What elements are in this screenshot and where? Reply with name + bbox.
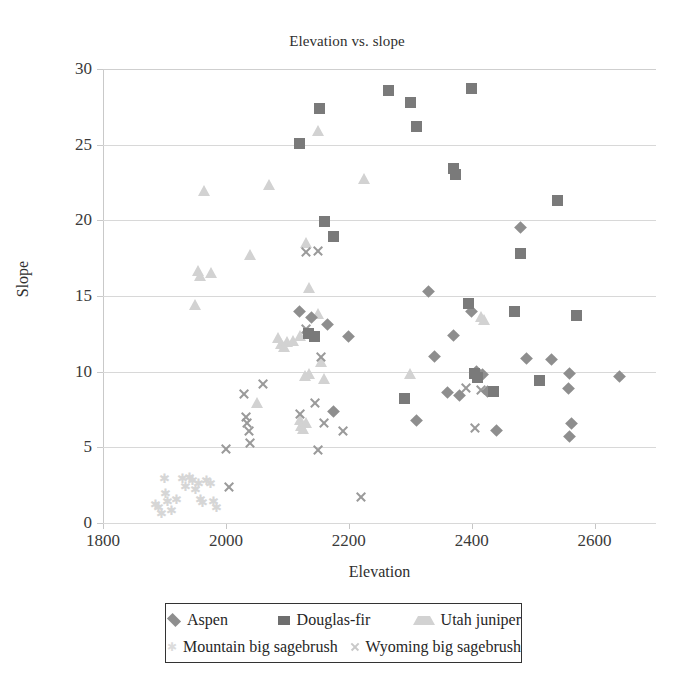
gridline xyxy=(103,69,656,70)
x-tick-label: 2200 xyxy=(304,531,394,551)
data-point xyxy=(450,169,461,180)
data-point xyxy=(342,330,355,343)
data-point xyxy=(564,367,577,380)
data-point xyxy=(318,373,330,384)
data-point xyxy=(294,138,305,149)
data-point xyxy=(564,430,577,443)
data-point xyxy=(463,298,474,309)
data-point xyxy=(545,353,558,366)
legend: Aspen Douglas-fir Utah juniper ✱ Mountai… xyxy=(165,603,522,663)
data-point xyxy=(515,248,526,259)
data-point xyxy=(321,318,334,331)
legend-entry-douglas-fir[interactable]: Douglas-fir xyxy=(277,611,371,629)
data-point xyxy=(205,267,217,278)
cross-icon xyxy=(349,641,361,653)
data-point xyxy=(244,249,256,260)
y-tick-label: 25 xyxy=(32,135,92,155)
data-point xyxy=(466,83,477,94)
y-tick-label: 30 xyxy=(32,59,92,79)
data-point: ✱ xyxy=(183,472,195,484)
data-point xyxy=(521,352,534,365)
data-point xyxy=(223,481,235,493)
data-point xyxy=(244,437,256,449)
data-point xyxy=(562,382,575,395)
legend-label: Douglas-fir xyxy=(297,611,371,629)
data-point: ✱ xyxy=(205,478,217,490)
data-point: ✱ xyxy=(158,473,170,485)
data-point xyxy=(293,305,306,318)
legend-row-secondary: ✱ Mountain big sagebrush Wyoming big sag… xyxy=(166,633,521,661)
y-axis-title: Slope xyxy=(14,209,32,349)
data-point xyxy=(327,405,340,418)
y-tick-label: 20 xyxy=(32,210,92,230)
diamond-icon xyxy=(167,613,181,627)
x-tick-label: 2400 xyxy=(427,531,517,551)
data-point xyxy=(243,425,255,437)
data-point xyxy=(383,85,394,96)
chart-title: Elevation vs. slope xyxy=(103,33,591,50)
data-point xyxy=(571,310,582,321)
data-point xyxy=(257,378,269,390)
data-point xyxy=(552,195,563,206)
data-point xyxy=(318,417,330,429)
data-point xyxy=(355,491,367,503)
plot-area: ✱✱✱✱✱✱✱✱✱✱✱✱✱✱✱✱✱✱✱✱ xyxy=(103,69,656,523)
legend-label: Wyoming big sagebrush xyxy=(366,638,521,656)
data-point xyxy=(337,425,349,437)
data-point xyxy=(478,314,490,325)
legend-row-primary: Aspen Douglas-fir Utah juniper xyxy=(166,606,521,634)
data-point xyxy=(309,331,320,342)
legend-entry-utah-juniper[interactable]: Utah juniper xyxy=(412,611,521,629)
data-point: ✱ xyxy=(211,502,223,514)
data-point xyxy=(294,408,306,420)
data-point xyxy=(514,222,527,235)
legend-label: Utah juniper xyxy=(441,611,521,629)
x-tick-label: 2000 xyxy=(181,531,271,551)
data-point xyxy=(312,125,324,136)
data-point xyxy=(299,370,311,381)
data-point xyxy=(309,397,321,409)
legend-label: Aspen xyxy=(187,611,228,629)
y-tick-label: 15 xyxy=(32,286,92,306)
data-point xyxy=(428,350,441,363)
data-point: ✱ xyxy=(160,488,172,500)
gridline xyxy=(103,145,656,146)
gridline xyxy=(103,296,656,297)
y-axis-tick-labels: 051015202530 xyxy=(28,0,92,694)
data-point xyxy=(312,444,324,456)
data-point xyxy=(410,414,423,427)
data-point xyxy=(488,386,499,397)
data-point xyxy=(314,103,325,114)
data-point xyxy=(469,422,481,434)
data-point xyxy=(534,375,545,386)
gridline xyxy=(103,523,656,524)
triangle-icon xyxy=(413,616,435,625)
gridline xyxy=(103,447,656,448)
legend-entry-aspen[interactable]: Aspen xyxy=(166,611,228,629)
data-point xyxy=(472,372,483,383)
star-icon: ✱ xyxy=(166,641,178,653)
legend-entry-mountain-big-sagebrush[interactable]: ✱ Mountain big sagebrush xyxy=(166,638,338,656)
data-point xyxy=(441,386,454,399)
data-point xyxy=(300,246,312,258)
data-point xyxy=(189,299,201,310)
legend-entry-wyoming-big-sagebrush[interactable]: Wyoming big sagebrush xyxy=(349,638,521,656)
x-tick-label: 2600 xyxy=(550,531,640,551)
data-point xyxy=(198,185,210,196)
y-tick-label: 10 xyxy=(32,362,92,382)
legend-label: Mountain big sagebrush xyxy=(183,638,338,656)
data-point xyxy=(399,393,410,404)
data-point: ✱ xyxy=(166,505,178,517)
data-point xyxy=(238,388,250,400)
data-point xyxy=(404,368,416,379)
x-tick-label: 1800 xyxy=(58,531,148,551)
y-tick-label: 5 xyxy=(32,437,92,457)
data-point xyxy=(447,329,460,342)
data-point xyxy=(312,245,324,257)
data-point xyxy=(328,231,339,242)
data-point xyxy=(358,173,370,184)
data-point xyxy=(411,121,422,132)
data-point xyxy=(565,417,578,430)
data-point xyxy=(251,397,263,408)
square-icon xyxy=(278,616,290,625)
